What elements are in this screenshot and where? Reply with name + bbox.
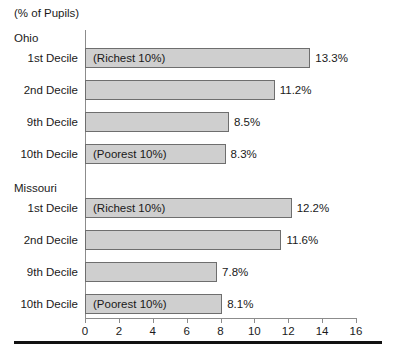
x-axis-tick-mark — [288, 318, 289, 323]
category-label-row: 9th Decile — [0, 262, 78, 282]
bar-value-label: 11.2% — [280, 84, 312, 97]
bar-value-label: 8.3% — [231, 148, 257, 161]
category-label: 2nd Decile — [0, 234, 78, 247]
x-axis-tick-label: 12 — [282, 325, 295, 338]
x-axis-tick-label: 4 — [150, 325, 156, 338]
category-label: 10th Decile — [0, 298, 78, 311]
x-axis-tick-mark — [322, 318, 323, 323]
bar-value-label: 12.2% — [297, 202, 330, 215]
bar-value-label: 8.5% — [234, 116, 260, 129]
bar: (Richest 10%) — [85, 198, 292, 218]
bottom-divider-rule — [14, 341, 382, 344]
category-label: 1st Decile — [0, 202, 78, 215]
x-axis-tick-mark — [119, 318, 120, 323]
bar: (Poorest 10%) — [85, 144, 226, 164]
category-label: 1st Decile — [0, 52, 78, 65]
x-axis-tick-mark — [221, 318, 222, 323]
category-label: 9th Decile — [0, 116, 78, 129]
category-label-row: 9th Decile — [0, 112, 78, 132]
bar-value-label: 13.3% — [315, 52, 348, 65]
x-axis-tick-label: 14 — [316, 325, 329, 338]
x-axis-tick-mark — [153, 318, 154, 323]
category-label-row: 10th Decile — [0, 144, 78, 164]
group-heading-missouri: Missouri — [14, 181, 57, 195]
category-label-row: 2nd Decile — [0, 80, 78, 100]
bar-annotation: (Poorest 10%) — [93, 298, 167, 311]
category-label-row: 1st Decile — [0, 48, 78, 68]
x-axis-tick-mark — [356, 318, 357, 323]
group-heading-ohio: Ohio — [14, 31, 38, 45]
category-label-row: 2nd Decile — [0, 230, 78, 250]
x-axis-tick-label: 8 — [217, 325, 223, 338]
bar: (Richest 10%) — [85, 48, 310, 68]
category-label: 2nd Decile — [0, 84, 78, 97]
x-axis-tick-label: 10 — [248, 325, 261, 338]
bar-annotation: (Richest 10%) — [93, 52, 165, 65]
bar — [85, 230, 281, 250]
bar-value-label: 11.6% — [286, 234, 318, 247]
x-axis-tick-label: 0 — [82, 325, 88, 338]
x-axis-tick-mark — [85, 318, 86, 323]
bar-value-label: 8.1% — [227, 298, 253, 311]
x-axis-tick-label: 6 — [183, 325, 189, 338]
x-axis-tick-label: 2 — [116, 325, 122, 338]
bar — [85, 262, 217, 282]
chart-root: (% of Pupils) (Richest 10%)13.3%1st Deci… — [0, 0, 394, 354]
bar — [85, 80, 275, 100]
x-axis-tick-label: 16 — [350, 325, 363, 338]
category-label-row: 10th Decile — [0, 294, 78, 314]
plot-area: (Richest 10%)13.3%1st Decile11.2%2nd Dec… — [85, 30, 357, 318]
bar — [85, 112, 229, 132]
category-label: 10th Decile — [0, 148, 78, 161]
chart-axis-title: (% of Pupils) — [14, 6, 79, 20]
category-label: 9th Decile — [0, 266, 78, 279]
x-axis-tick-mark — [187, 318, 188, 323]
bar-value-label: 7.8% — [222, 266, 248, 279]
category-label-row: 1st Decile — [0, 198, 78, 218]
bar-annotation: (Richest 10%) — [93, 202, 165, 215]
bar-annotation: (Poorest 10%) — [93, 148, 167, 161]
x-axis-tick-mark — [254, 318, 255, 323]
bar: (Poorest 10%) — [85, 294, 222, 314]
